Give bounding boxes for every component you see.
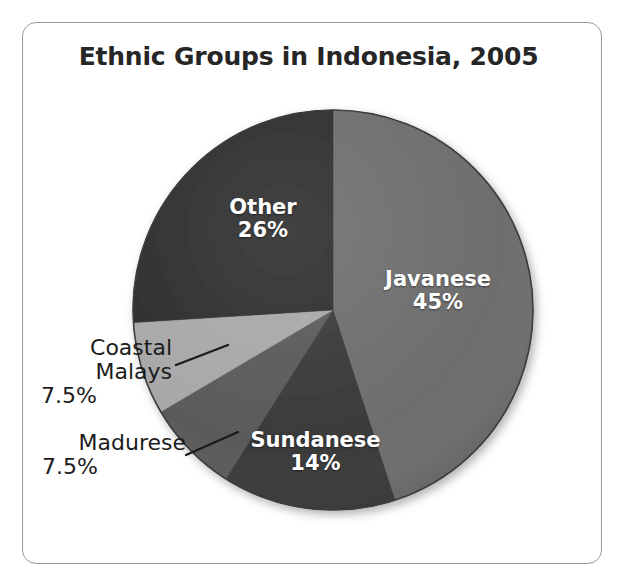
callout-label-coastal-malays-value: 7.5% xyxy=(0,384,172,408)
slice-label-other-name: Other xyxy=(193,196,333,219)
slice-label-sundanese-name: Sundanese xyxy=(228,429,403,452)
slice-label-sundanese-value: 14% xyxy=(228,452,403,475)
slice-label-other: Other 26% xyxy=(193,196,333,241)
slice-label-javanese-name: Javanese xyxy=(363,268,513,291)
callout-label-coastal-malays: Coastal Malays 7.5% xyxy=(0,336,172,409)
pie-chart: Javanese 45% Other 26% Sundanese 14% Coa… xyxy=(0,0,617,588)
slice-label-javanese: Javanese 45% xyxy=(363,268,513,313)
slice-label-javanese-value: 45% xyxy=(363,291,513,314)
callout-label-madurese-name: Madurese xyxy=(0,431,186,455)
callout-label-coastal-malays-name-line2: Malays xyxy=(0,360,172,384)
callout-label-coastal-malays-name-line1: Coastal xyxy=(0,336,172,360)
pie-svg xyxy=(0,0,617,588)
callout-label-madurese-value: 7.5% xyxy=(0,455,186,479)
figure-root: Ethnic Groups in Indonesia, 2005 xyxy=(0,0,617,588)
callout-label-madurese: Madurese 7.5% xyxy=(0,431,186,479)
slice-label-sundanese: Sundanese 14% xyxy=(228,429,403,474)
slice-label-other-value: 26% xyxy=(193,219,333,242)
